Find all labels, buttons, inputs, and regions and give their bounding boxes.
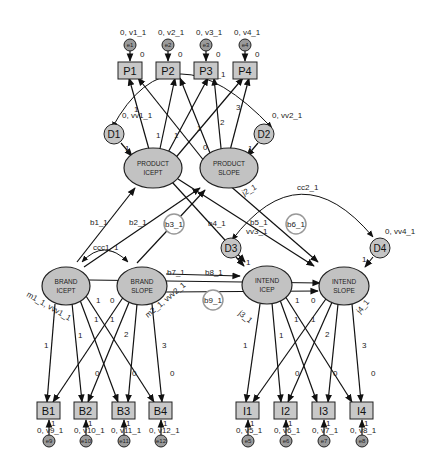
svg-text:INTEND: INTEND <box>332 278 357 285</box>
svg-text:1: 1 <box>311 315 316 324</box>
indicator-p3: P3 <box>194 62 218 79</box>
svg-text:1: 1 <box>156 131 161 140</box>
svg-text:P2: P2 <box>161 65 174 77</box>
svg-text:0: 0 <box>216 50 221 59</box>
svg-text:I4: I4 <box>357 405 366 417</box>
product-indicators: P1 P2 P3 P4 <box>118 62 257 79</box>
svg-text:0: 0 <box>140 50 145 59</box>
svg-text:1: 1 <box>279 331 284 340</box>
latent-intend-icept: INTEND ICEP <box>242 266 292 304</box>
svg-text:1: 1 <box>110 315 115 324</box>
svg-text:b9_1: b9_1 <box>204 296 222 305</box>
svg-text:e6: e6 <box>283 438 290 444</box>
indicator-i4: I4 <box>350 402 373 419</box>
svg-text:BRAND: BRAND <box>55 278 78 285</box>
svg-text:e5: e5 <box>245 438 252 444</box>
svg-text:I3: I3 <box>319 405 328 417</box>
indicator-p4: P4 <box>233 62 257 79</box>
svg-text:1: 1 <box>295 296 300 305</box>
intend-indicators: I1 I2 I3 I4 <box>236 402 373 419</box>
svg-text:0, vv2_1: 0, vv2_1 <box>272 111 303 120</box>
svg-text:e3: e3 <box>203 42 210 48</box>
svg-text:D3: D3 <box>225 243 238 254</box>
svg-text:0: 0 <box>132 369 137 378</box>
indicator-b4: B4 <box>149 402 172 419</box>
indicator-i1: I1 <box>236 402 259 419</box>
svg-text:1: 1 <box>294 315 299 324</box>
svg-text:I2: I2 <box>281 405 290 417</box>
svg-text:SLOPE: SLOPE <box>218 169 240 176</box>
svg-text:1: 1 <box>96 296 101 305</box>
svg-text:1: 1 <box>44 341 49 350</box>
svg-text:1: 1 <box>243 341 248 350</box>
svg-text:0: 0 <box>255 50 260 59</box>
svg-text:3: 3 <box>162 341 167 350</box>
svg-text:P1: P1 <box>123 65 136 77</box>
svg-text:e2: e2 <box>165 42 172 48</box>
svg-text:1: 1 <box>362 255 367 264</box>
svg-text:0: 0 <box>178 50 183 59</box>
svg-text:0: 0 <box>95 369 100 378</box>
svg-text:0, vv1_1: 0, vv1_1 <box>122 111 153 120</box>
svg-text:b3_1: b3_1 <box>165 220 183 229</box>
svg-text:1: 1 <box>88 419 93 428</box>
path-label-b9: b9_1 <box>203 290 223 310</box>
svg-text:0: 0 <box>311 296 316 305</box>
svg-text:vv3_1: vv3_1 <box>246 227 268 236</box>
svg-text:0, v2_1: 0, v2_1 <box>158 28 185 37</box>
indicator-i2: I2 <box>274 402 297 419</box>
latent-product-slope: PRODUCT SLOPE <box>200 148 258 188</box>
svg-text:e1: e1 <box>127 42 134 48</box>
svg-text:1: 1 <box>288 419 293 428</box>
svg-text:3: 3 <box>362 341 367 350</box>
svg-text:2: 2 <box>124 330 129 339</box>
svg-text:b1_1: b1_1 <box>90 218 108 227</box>
svg-text:1: 1 <box>94 315 99 324</box>
svg-text:0: 0 <box>295 369 300 378</box>
svg-text:BRAND: BRAND <box>131 278 154 285</box>
svg-text:B4: B4 <box>154 405 167 417</box>
svg-text:P4: P4 <box>238 65 251 77</box>
latent-mean-labels: m1_1, vvv1_1 m2_1, vvv2_1 j2_1 j3_1 j4_1 <box>25 182 372 326</box>
disturbance-d2: D2 0, vv2_1 1 <box>247 111 303 156</box>
svg-text:0, v4_1: 0, v4_1 <box>234 28 261 37</box>
svg-text:ICEPT: ICEPT <box>143 169 162 176</box>
svg-text:0: 0 <box>170 369 175 378</box>
svg-text:2: 2 <box>325 330 330 339</box>
svg-text:b6_1: b6_1 <box>287 220 305 229</box>
svg-text:P3: P3 <box>199 65 212 77</box>
svg-text:D4: D4 <box>374 243 387 254</box>
svg-text:0, v3_1: 0, v3_1 <box>196 28 223 37</box>
svg-text:ICEPT: ICEPT <box>56 287 75 294</box>
latent-brand-icept: BRAND ICEPT <box>42 267 90 305</box>
svg-text:3: 3 <box>236 103 241 112</box>
svg-text:e9: e9 <box>46 438 53 444</box>
svg-text:b8_1: b8_1 <box>205 268 223 277</box>
svg-text:1: 1 <box>326 419 331 428</box>
product-errors: e1 e2 e3 e4 0, v1_1 0, v2_1 0, v3_1 0, v… <box>120 28 261 61</box>
svg-text:D1: D1 <box>108 129 121 140</box>
svg-text:e10: e10 <box>81 438 92 444</box>
svg-text:0, v1_1: 0, v1_1 <box>120 28 147 37</box>
indicator-p1: P1 <box>118 62 142 79</box>
svg-text:1: 1 <box>174 131 179 140</box>
svg-text:D2: D2 <box>258 129 271 140</box>
svg-text:b4_1: b4_1 <box>208 219 226 228</box>
svg-text:PRODUCT: PRODUCT <box>137 160 169 167</box>
svg-text:SLOPE: SLOPE <box>131 287 153 294</box>
svg-text:SLOPE: SLOPE <box>333 287 355 294</box>
svg-text:e8: e8 <box>359 438 366 444</box>
svg-text:b2_1: b2_1 <box>129 218 147 227</box>
svg-text:0: 0 <box>333 369 338 378</box>
svg-text:e7: e7 <box>321 438 328 444</box>
indicator-b3: B3 <box>112 402 135 419</box>
svg-text:1: 1 <box>125 144 130 153</box>
svg-text:PRODUCT: PRODUCT <box>213 160 245 167</box>
svg-text:b5_1: b5_1 <box>250 218 268 227</box>
svg-text:1: 1 <box>197 124 202 133</box>
brand-indicators: B1 B2 B3 B4 <box>37 402 172 419</box>
svg-text:B2: B2 <box>79 405 92 417</box>
svg-text:cc2_1: cc2_1 <box>297 183 319 192</box>
svg-text:I1: I1 <box>243 405 252 417</box>
svg-text:1: 1 <box>78 331 83 340</box>
